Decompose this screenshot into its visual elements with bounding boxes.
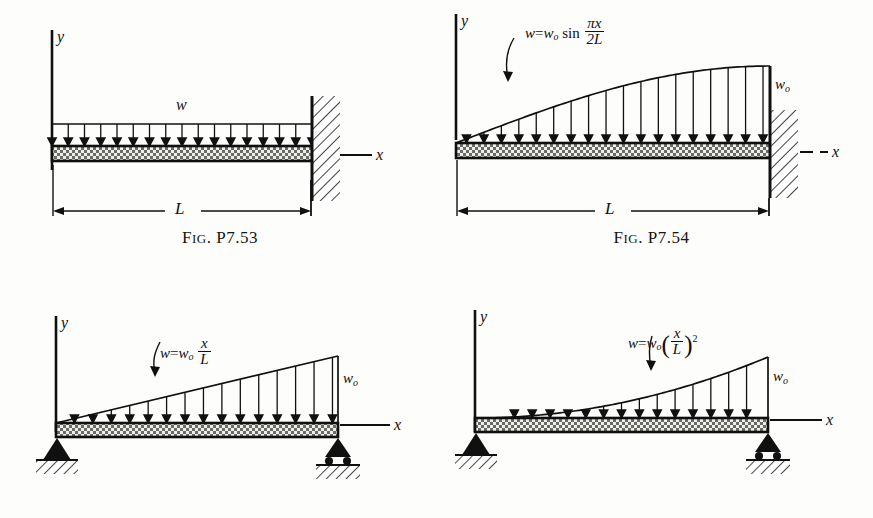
y-axis-label: y: [461, 12, 468, 30]
dimension-label-L: L: [605, 199, 614, 219]
figure-caption-p7-54: FIG. P7.54: [430, 228, 873, 248]
caption-fig-number: . P7.54: [638, 228, 689, 247]
roller-wheel-left: [755, 452, 763, 460]
y-axis-label: y: [57, 28, 64, 46]
load-intensity-label-w0: wo: [773, 368, 788, 386]
dim-arrow-right: [758, 207, 769, 215]
roller-wheel-right: [773, 452, 781, 460]
load-label-w: w: [176, 96, 187, 114]
formula-leader-head: [503, 71, 513, 82]
x-axis-label: x: [832, 143, 839, 161]
formula-leader-head: [646, 360, 656, 371]
y-axis-label: y: [480, 308, 487, 326]
pin-support: [462, 433, 490, 455]
caption-fig-prefix: F: [614, 228, 624, 247]
figure-p7-53: y x L w FIG. P7.53: [0, 0, 440, 260]
roller-wheel-right: [343, 457, 351, 465]
figure-p7-54: y x L wo w=wo sin πx2L FIG. P7.54: [430, 0, 873, 260]
roller-ground: [316, 465, 360, 479]
caption-fig-smallcaps: IG: [624, 231, 639, 246]
load-arrows: [48, 124, 316, 146]
formula-leader-head: [150, 366, 160, 377]
load-curve-sine: [456, 66, 770, 143]
caption-fig-number: . P7.53: [207, 228, 258, 247]
dim-arrow-left: [457, 207, 468, 215]
beam-body: [475, 418, 768, 432]
load-intensity-label-w0: wo: [343, 370, 358, 388]
pin-ground: [455, 455, 497, 469]
figure-plate: y x L w FIG. P7.53: [0, 0, 873, 518]
roller-wheel-left: [325, 457, 333, 465]
dim-arrow-left: [53, 207, 64, 215]
load-intensity-label-w0: wo: [775, 76, 790, 94]
load-formula-p7-54: w=wo sin πx2L: [525, 16, 605, 48]
pin-ground: [36, 460, 78, 474]
y-axis-label: y: [61, 314, 68, 332]
caption-fig-smallcaps: IG: [192, 231, 207, 246]
x-axis-label: x: [394, 416, 401, 434]
caption-fig-prefix: F: [182, 228, 192, 247]
beam-body: [456, 143, 780, 158]
dim-arrow-right: [300, 207, 311, 215]
figure-p7-55: y x wo w=wo xL FIG. P7.55: [0, 260, 440, 518]
beam-body: [52, 146, 322, 161]
load-arrows: [510, 366, 751, 418]
roller-support: [755, 433, 781, 452]
figure-p7-56: y x wo w=wo(xL)2 FIG. P7.56: [430, 260, 873, 518]
dimension-label-L: L: [175, 199, 184, 219]
pin-support: [43, 438, 71, 460]
x-axis-label: x: [376, 146, 383, 164]
fixed-wall: [312, 96, 340, 201]
fixed-wall: [770, 110, 798, 198]
x-axis-label: x: [826, 411, 833, 429]
load-formula-p7-55: w=wo xL: [160, 336, 212, 368]
roller-ground: [746, 460, 790, 474]
roller-support: [325, 438, 351, 457]
figure-caption-p7-53: FIG. P7.53: [0, 228, 440, 248]
beam-body: [56, 423, 338, 437]
load-formula-p7-56: w=wo(xL)2: [628, 326, 698, 359]
